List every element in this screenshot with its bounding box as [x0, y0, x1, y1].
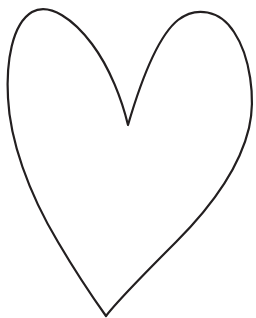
canvas-background [0, 0, 256, 318]
heart-outline-graphic: Heart Outline Drawing [0, 0, 256, 318]
drawing-canvas: Heart Outline Drawing [0, 0, 256, 318]
